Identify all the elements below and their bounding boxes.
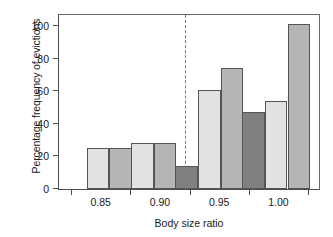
chart-figure: Percentage frequency of evictions 020406… xyxy=(0,0,333,237)
y-tick-0: 0 xyxy=(53,188,59,189)
x-tick-label-0.95: 0.95 xyxy=(209,196,229,208)
x-tick-mark-1 xyxy=(130,189,131,195)
y-tick-label-20: 20 xyxy=(37,150,49,162)
y-tick-60: 60 xyxy=(53,90,59,91)
x-tick-mark-3 xyxy=(249,189,250,195)
bar-0.95-light-gray-series xyxy=(198,90,221,189)
bar-0.85-medium-gray-series xyxy=(109,148,132,189)
bar-0.90-light-gray-series xyxy=(131,143,154,189)
bar-0.95-dark-gray-series xyxy=(175,166,198,189)
bar-0.90-medium-gray-series xyxy=(154,143,177,189)
bars-layer xyxy=(59,15,319,189)
plot-area: 020406080100 0.850.900.951.00 xyxy=(58,14,320,190)
y-tick-20: 20 xyxy=(53,155,59,156)
y-tick-label-60: 60 xyxy=(37,85,49,97)
bar-1.00-medium-gray-series xyxy=(288,24,311,189)
x-tick-label-1.00: 1.00 xyxy=(268,196,288,208)
x-tick-label-0.85: 0.85 xyxy=(90,196,110,208)
y-tick-label-0: 0 xyxy=(43,183,49,195)
x-axis-title: Body size ratio xyxy=(58,217,320,229)
x-tick-label-0.90: 0.90 xyxy=(150,196,170,208)
y-tick-label-40: 40 xyxy=(37,118,49,130)
bar-0.95-medium-gray-series xyxy=(221,68,244,189)
y-tick-label-80: 80 xyxy=(37,53,49,65)
bar-0.85-light-gray-series xyxy=(87,148,110,189)
y-tick-40: 40 xyxy=(53,123,59,124)
x-tick-mark-4 xyxy=(308,189,309,195)
bar-1.00-dark-gray-series xyxy=(242,112,265,189)
vertical-dashed-divider xyxy=(185,15,186,189)
x-tick-mark-0 xyxy=(71,189,72,195)
bar-1.00-light-gray-series xyxy=(265,101,288,189)
y-tick-100: 100 xyxy=(53,25,59,26)
y-tick-label-100: 100 xyxy=(31,20,49,32)
y-tick-80: 80 xyxy=(53,58,59,59)
x-tick-mark-2 xyxy=(190,189,191,195)
